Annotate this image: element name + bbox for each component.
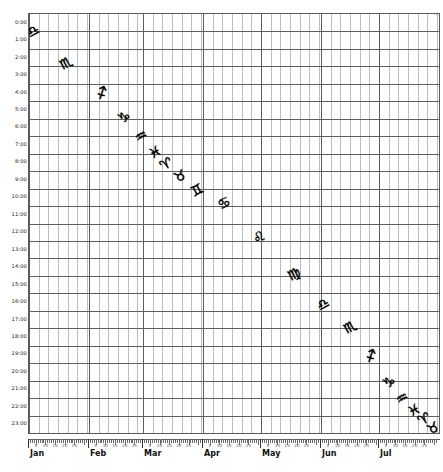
x-tick-day [196,439,197,443]
y-tick-label: 12:00 [1,228,27,234]
x-tick-day [138,439,139,443]
gridline-hour [29,154,439,155]
y-tick-label: 1:00 [1,36,27,42]
zodiac-taurus-icon: ♉ [171,167,189,185]
x-tick-day [190,439,191,443]
gridline-hour [29,398,439,399]
zodiac-scorpio-icon: ♏ [57,54,75,72]
x-tick-day-label: 15 [112,443,117,448]
y-tick-label: 23:00 [1,420,27,426]
x-tick-day [330,439,331,443]
x-tick-day [374,439,375,443]
x-tick-day-label: 10 [43,443,48,448]
x-tick-day [144,439,145,443]
x-tick-day [59,439,60,443]
gridline-hour [29,363,439,364]
x-tick-day [206,439,207,443]
x-tick-day [30,439,31,443]
x-tick-day-label: 20 [412,443,417,448]
y-tick-label: 5:00 [1,106,27,112]
x-tick-day [117,439,118,443]
y-tick-label: 19:00 [1,350,27,356]
x-tick-month [88,439,89,448]
x-tick-day [351,439,352,443]
y-tick-label: 4:00 [1,89,27,95]
gridline-hour [29,276,439,277]
y-tick-label: 10:00 [1,193,27,199]
x-tick-day-label: 20 [122,443,127,448]
x-tick-day [428,439,429,443]
x-tick-day [409,439,410,443]
x-axis-month-label: Mar [142,449,161,458]
x-tick-day [98,439,99,443]
x-tick-day-label: 10 [103,443,108,448]
x-tick-day [432,439,433,443]
x-tick-day [221,439,222,443]
x-tick-day-label: 15 [167,443,172,448]
gridline-hour [29,311,439,312]
x-axis-month-label: Jan [28,449,44,458]
x-tick-day [299,439,300,443]
x-tick-day-label: 25 [304,443,309,448]
x-tick-day-label: 10 [335,443,340,448]
x-tick-day [281,439,282,443]
x-tick-day [419,439,420,443]
gridline-hour [29,84,439,85]
x-tick-day [183,439,184,443]
x-axis-month-label: May [260,449,280,458]
x-tick-day [86,439,87,443]
x-tick-day-label: 20 [354,443,359,448]
x-tick-day-label: 5 [148,443,151,448]
gridline-hour [29,136,439,137]
gridline-hour [29,416,439,417]
y-tick-label: 18:00 [1,333,27,339]
x-tick-day [417,439,418,443]
gridline-hour [29,346,439,347]
x-tick-month [142,439,143,448]
x-tick-day-label: 25 [422,443,427,448]
x-tick-day-label: 10 [275,443,280,448]
x-axis-month-label: Jun [320,449,336,458]
x-tick-day [100,439,101,443]
x-tick-day [399,439,400,443]
x-tick-day [322,439,323,443]
x-tick-month [202,439,203,448]
zodiac-scorpio-icon: ♏ [341,317,359,335]
x-tick-day [192,439,193,443]
x-axis-month-label: Jul [378,449,391,458]
x-tick-day [397,439,398,443]
x-tick-day [47,439,48,443]
x-tick-day-label: 20 [236,443,241,448]
x-tick-day [76,439,77,443]
x-tick-day-label: 5 [266,443,269,448]
x-tick-day [129,439,130,443]
x-tick-day-label: 20 [294,443,299,448]
gridline-hour [29,119,439,120]
x-tick-day [291,439,292,443]
zodiac-capricorn-icon: ♑ [380,373,398,391]
x-tick-day [254,439,255,443]
x-tick-day [161,439,162,443]
x-tick-day-label: 25 [72,443,77,448]
x-tick-day [38,439,39,443]
gridline-hour [29,224,439,225]
y-tick-label: 9:00 [1,176,27,182]
gridline-hour [29,101,439,102]
x-tick-day-label: 25 [186,443,191,448]
y-tick-label: 20:00 [1,368,27,374]
x-tick-day [49,439,50,443]
y-tick-label: 15:00 [1,281,27,287]
x-tick-day [390,439,391,443]
x-tick-day [434,439,435,445]
x-tick-day [380,439,381,443]
x-tick-day [316,439,317,445]
x-tick-month [378,439,379,448]
x-tick-day-label: 5 [208,443,211,448]
x-tick-day-label: 25 [132,443,137,448]
x-tick-day-label: 25 [246,443,251,448]
x-tick-day [243,439,244,443]
y-tick-label: 21:00 [1,385,27,391]
x-tick-day [372,439,373,443]
x-tick-day [426,439,427,443]
y-tick-label: 2:00 [1,54,27,60]
